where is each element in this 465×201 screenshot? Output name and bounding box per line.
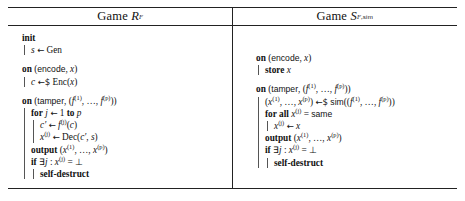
right-store-line: store x <box>265 64 456 76</box>
colon: : <box>50 157 53 167</box>
output-keyword: output <box>31 145 57 155</box>
left-if-body: self-destruct <box>31 168 232 180</box>
arg-x: x <box>70 77 74 87</box>
right-encode-block: on (encode, x) store x <box>256 52 456 76</box>
assign-arrow-icon: ← <box>37 45 44 55</box>
for-all-keyword: for all <box>265 109 289 119</box>
var-c: c <box>31 77 35 87</box>
assign-arrow-icon: ← <box>50 108 57 118</box>
ellipsis: … <box>313 133 322 143</box>
output-keyword: output <box>265 133 291 143</box>
equals-sign: = <box>304 109 309 119</box>
right-if-line: if ∃j : x(j) = ⊥ <box>265 144 456 156</box>
sup-p: (p) <box>302 95 309 102</box>
arg-c: c <box>70 120 74 130</box>
if-keyword: if <box>31 157 37 167</box>
right-title-sub-calF: F <box>357 13 361 20</box>
left-panel-title: Game RF <box>8 8 233 25</box>
game-definition-figure: Game RF Game SF,sim init s ← Gen <box>0 0 465 201</box>
right-encode-header: on (encode, x) <box>256 52 456 64</box>
right-if-body: self-destruct <box>265 157 456 169</box>
ellipsis: … <box>79 145 88 155</box>
left-tamper-header: on (tamper, (f(1), …, f(p))) <box>22 95 232 107</box>
var-j: j <box>45 108 48 118</box>
init-header: init <box>22 32 232 44</box>
bottom-symbol-icon: ⊥ <box>75 157 83 167</box>
sup-1: (1) <box>308 82 315 89</box>
left-encode-body: c ←$ Enc(x) <box>22 76 232 88</box>
sup-j: (j) <box>59 155 65 162</box>
self-destruct-keyword: self-destruct <box>274 158 323 168</box>
colon: : <box>284 145 287 155</box>
sup-p: (p) <box>337 82 344 89</box>
init-line-gen: s ← Gen <box>31 44 232 56</box>
left-line-cprime: c′ ← f(j)(c) <box>40 119 232 131</box>
right-tamper-body: (x(1), …, x(p)) ←$ sim((f(1), …, f(p))) … <box>256 96 456 169</box>
self-destruct-keyword: self-destruct <box>40 169 89 179</box>
sup-p: (p) <box>103 94 110 101</box>
game-r-panel: init s ← Gen on (encode, x) c <box>8 26 232 188</box>
sup-p: (p) <box>381 95 388 102</box>
right-forall-line: for all x(j) = same <box>265 108 456 120</box>
arg-c-prime: c′ <box>80 132 86 142</box>
right-sim-line: (x(1), …, x(p)) ←$ sim((f(1), …, f(p))) <box>265 96 456 108</box>
equals-sign: = <box>67 157 72 167</box>
sup-1: (1) <box>74 94 81 101</box>
var-p: p <box>77 108 82 118</box>
right-panel-title: Game SF,sim <box>233 8 458 25</box>
var-x: x <box>287 65 291 75</box>
store-keyword: store <box>265 65 284 75</box>
same-literal: same <box>311 109 332 119</box>
init-keyword: init <box>22 33 35 43</box>
sup-1: (1) <box>272 95 279 102</box>
left-self-destruct-line: self-destruct <box>40 168 232 180</box>
init-block: init s ← Gen <box>22 32 232 56</box>
var-x: x <box>70 64 74 74</box>
sup-j: (j) <box>278 119 284 126</box>
left-for-body: c′ ← f(j)(c) x(j) ← Dec(c′, s) <box>31 119 232 143</box>
left-encode-header: on (encode, x) <box>22 63 232 75</box>
sup-1: (1) <box>301 131 308 138</box>
sup-j: (j) <box>61 118 67 125</box>
ellipsis: … <box>86 96 95 106</box>
left-tamper-block: on (tamper, (f(1), …, f(p))) for j ← 1 t… <box>22 95 232 180</box>
sup-1: (1) <box>67 143 74 150</box>
sup-p: (p) <box>97 143 104 150</box>
left-title-symbol: R <box>131 9 139 24</box>
if-keyword: if <box>265 145 271 155</box>
fn-dec: Dec <box>62 132 77 142</box>
on-keyword: on <box>256 84 266 94</box>
on-keyword: on <box>256 53 266 63</box>
random-assign-arrow-icon: ←$ <box>37 77 50 87</box>
ellipsis: … <box>320 84 329 94</box>
right-title-sub-sim: sim <box>363 13 373 20</box>
var-c-prime: c′ <box>40 120 46 130</box>
on-keyword: on <box>22 96 32 106</box>
figure-header-row: Game RF Game SF,sim <box>8 8 457 25</box>
right-forall-body: x(j) ← x <box>265 120 456 132</box>
left-tamper-body: for j ← 1 to p c′ ← f(j)(c) <box>22 107 232 180</box>
ellipsis: … <box>365 97 374 107</box>
sup-1: (1) <box>353 95 360 102</box>
fn-sim: sim <box>330 97 343 107</box>
tamper-label: tamper <box>37 96 64 106</box>
assign-arrow-icon: ← <box>53 132 60 142</box>
tamper-label: tamper <box>271 84 298 94</box>
left-encode-block: on (encode, x) c ←$ Enc(x) <box>22 63 232 87</box>
left-if-line: if ∃j : x(j) = ⊥ <box>31 156 232 168</box>
var-j: j <box>279 145 282 155</box>
encode-label: encode <box>271 53 299 63</box>
fn-enc: Enc <box>52 77 66 87</box>
sup-j: (j) <box>44 130 50 137</box>
var-x: x <box>296 121 300 131</box>
left-encode-line-enc: c ←$ Enc(x) <box>31 76 232 88</box>
arg-s: s <box>91 132 95 142</box>
encode-label: encode <box>37 64 65 74</box>
var-s: s <box>31 45 35 55</box>
right-encode-body: store x <box>256 64 456 76</box>
to-keyword: to <box>67 108 75 118</box>
random-assign-arrow-icon: ←$ <box>315 97 328 107</box>
bottom-symbol-icon: ⊥ <box>309 145 317 155</box>
var-j: j <box>45 157 48 167</box>
fn-gen: Gen <box>46 45 62 55</box>
